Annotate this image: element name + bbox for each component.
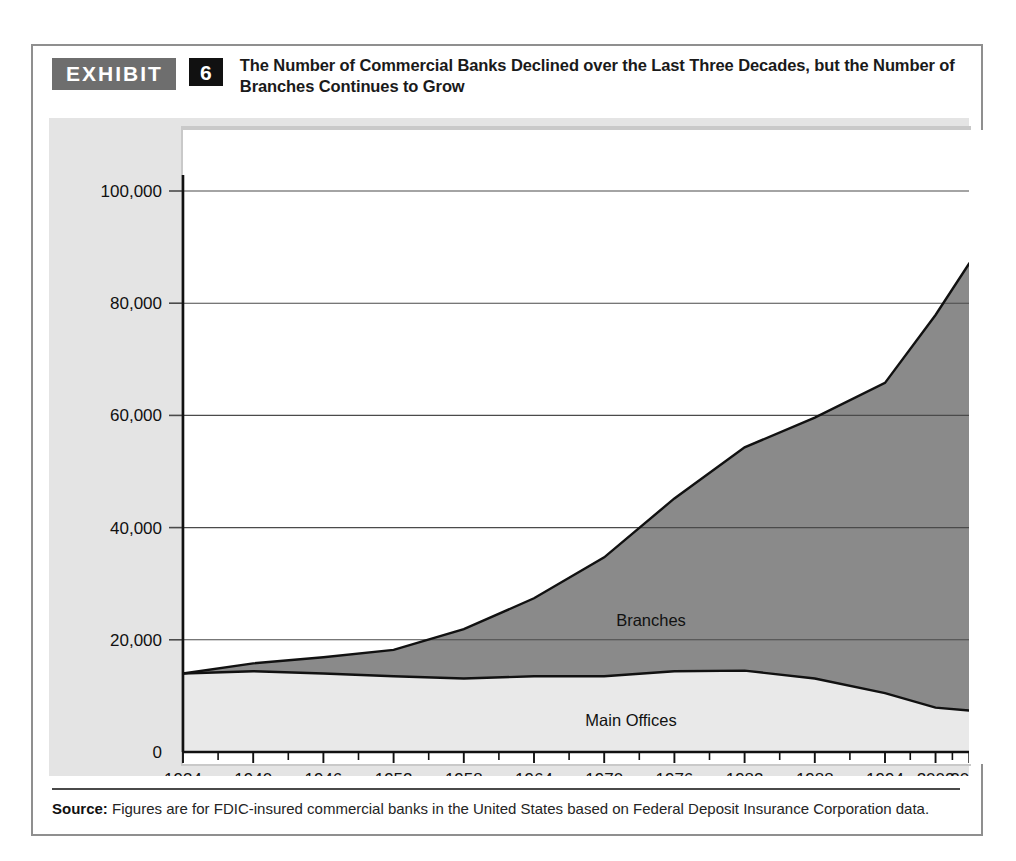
page-title: The Number of Commercial Banks Declined … [240, 55, 963, 98]
x-axis-tick-label: 2006 [950, 770, 969, 776]
y-axis-tick-label: 20,000 [110, 631, 162, 650]
chart-panel: 020,00040,00060,00080,000100,00019341940… [49, 118, 969, 776]
exhibit-header: EXHIBIT 6 The Number of Commercial Banks… [33, 46, 981, 114]
source-note: Source: Figures are for FDIC-insured com… [52, 798, 964, 820]
y-axis-tick-label: 60,000 [110, 406, 162, 425]
source-label: Source: [52, 800, 108, 817]
area-chart: 020,00040,00060,00080,000100,00019341940… [49, 118, 969, 776]
y-axis-tick-label: 40,000 [110, 519, 162, 538]
x-axis-tick-label: 1964 [515, 770, 553, 776]
exhibit-badge: EXHIBIT [52, 58, 176, 90]
x-axis-tick-label: 1940 [234, 770, 272, 776]
series-label-branches: Branches [616, 611, 686, 629]
x-axis-tick-label: 1958 [445, 770, 483, 776]
x-axis-tick-label: 1946 [304, 770, 342, 776]
exhibit-frame: EXHIBIT 6 The Number of Commercial Banks… [31, 44, 983, 836]
x-axis-tick-label: 1982 [726, 770, 764, 776]
y-axis-tick-label: 100,000 [101, 182, 162, 201]
x-axis-tick-label: 1970 [585, 770, 623, 776]
series-label-main-offices: Main Offices [585, 711, 676, 729]
source-text: Figures are for FDIC-insured commercial … [108, 800, 929, 817]
x-axis-tick-label: 1934 [164, 770, 202, 776]
y-axis-tick-label: 80,000 [110, 294, 162, 313]
x-axis-tick-label: 1976 [655, 770, 693, 776]
x-axis-tick-label: 1952 [375, 770, 413, 776]
y-axis-tick-label: 0 [153, 743, 162, 762]
exhibit-number-badge: 6 [189, 58, 223, 86]
source-divider [52, 788, 960, 790]
x-axis-tick-label: 1994 [866, 770, 904, 776]
x-axis-tick-label: 1988 [796, 770, 834, 776]
x-axis-tick-label: 2002 [917, 770, 955, 776]
